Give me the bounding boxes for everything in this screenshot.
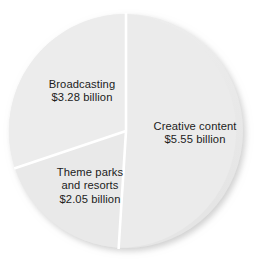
slice-creative-content[interactable] bbox=[119, 14, 236, 248]
pie-chart: Broadcasting $3.28 billion Creative cont… bbox=[0, 0, 259, 265]
pie-chart-graphic bbox=[0, 0, 259, 265]
